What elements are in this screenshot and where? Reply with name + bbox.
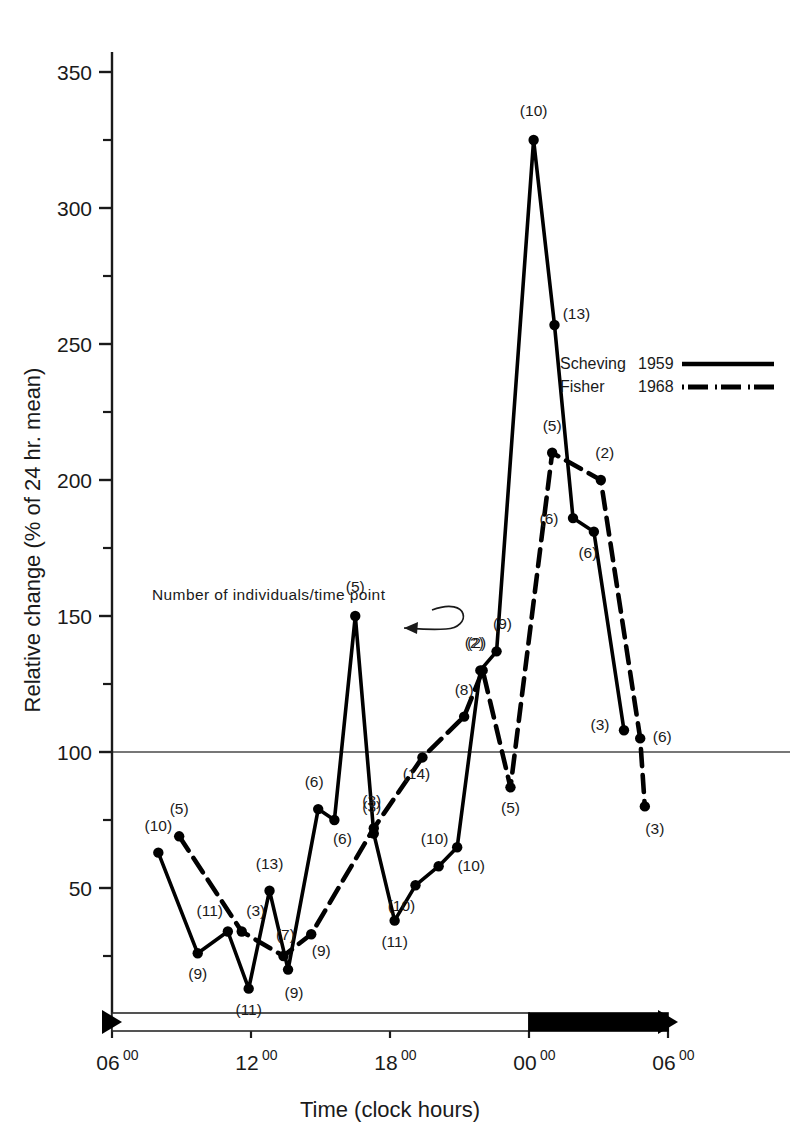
- y-tick-label: 350: [57, 61, 92, 84]
- svg-text:18: 18: [374, 1051, 397, 1074]
- data-point-marker: [283, 964, 293, 974]
- point-count-label: (11): [197, 902, 223, 919]
- y-tick-label: 100: [57, 741, 92, 764]
- point-count-label: (11): [381, 933, 407, 950]
- point-count-label: (10): [520, 102, 548, 119]
- point-count-label: (14): [403, 765, 431, 782]
- data-point-marker: [589, 526, 599, 536]
- point-count-label: (9): [188, 965, 207, 982]
- point-count-label: (6): [333, 830, 352, 847]
- point-count-label: (10): [145, 817, 173, 834]
- data-point-marker: [243, 983, 253, 993]
- data-point-marker: [278, 951, 288, 961]
- data-point-marker: [528, 135, 538, 145]
- data-point-marker: [193, 948, 203, 958]
- y-tick-label: 250: [57, 333, 92, 356]
- legend-year: 1959: [638, 355, 674, 372]
- point-count-label: (3): [246, 902, 265, 919]
- data-point-marker: [547, 448, 557, 458]
- data-point-marker: [640, 801, 650, 811]
- point-count-label: (5): [170, 800, 189, 817]
- data-point-marker: [237, 926, 247, 936]
- data-point-marker: [306, 929, 316, 939]
- annotation-layer: Number of individuals/time point: [152, 586, 463, 634]
- y-axis-title: Relative change (% of 24 hr. mean): [20, 368, 45, 713]
- point-count-label: (10): [388, 897, 416, 914]
- point-count-label: (13): [256, 855, 284, 872]
- data-point-marker: [619, 725, 629, 735]
- data-point-marker: [153, 847, 163, 857]
- svg-text:00: 00: [513, 1051, 536, 1074]
- svg-text:06: 06: [652, 1051, 675, 1074]
- data-point-marker: [313, 804, 323, 814]
- point-count-label: (3): [645, 820, 664, 837]
- data-point-marker: [389, 915, 399, 925]
- point-count-label: (10): [421, 830, 449, 847]
- data-point-marker: [350, 611, 360, 621]
- x-tick-label: 1200: [235, 1047, 277, 1074]
- light-phase-bar: [112, 1013, 529, 1031]
- data-point-marker: [459, 711, 469, 721]
- data-point-marker: [410, 880, 420, 890]
- data-point-marker: [452, 842, 462, 852]
- data-point-marker: [491, 646, 501, 656]
- svg-text:00: 00: [123, 1047, 139, 1063]
- svg-text:12: 12: [235, 1051, 258, 1074]
- point-count-label: (6): [305, 773, 324, 790]
- data-point-marker: [174, 831, 184, 841]
- x-axis-title: Time (clock hours): [300, 1097, 480, 1122]
- data-point-marker: [417, 752, 427, 762]
- data-point-marker: [223, 926, 233, 936]
- point-count-label: (6): [653, 728, 672, 745]
- point-count-label: (6): [578, 544, 597, 561]
- line-chart-canvas: (10)(9)(11)(11)(13)(9)(6)(6)(5)(3)(11)(1…: [0, 0, 802, 1127]
- legend-author: Scheving: [560, 355, 626, 372]
- legend-author: Fisher: [560, 378, 605, 395]
- svg-text:00: 00: [540, 1047, 556, 1063]
- point-count-label: (10): [457, 857, 485, 874]
- point-count-label: (5): [543, 417, 562, 434]
- point-count-label: (5): [501, 799, 520, 816]
- point-count-label: (2): [467, 634, 486, 651]
- series-line-fisher-1968: [179, 453, 645, 956]
- data-point-marker: [433, 861, 443, 871]
- dark-phase-bar: [529, 1013, 668, 1031]
- point-count-label: (3): [591, 716, 610, 733]
- legend-year: 1968: [638, 378, 674, 395]
- data-point-marker: [596, 475, 606, 485]
- svg-text:06: 06: [96, 1051, 119, 1074]
- point-count-label: (11): [235, 1001, 261, 1018]
- point-count-label: (9): [312, 942, 331, 959]
- data-point-marker: [549, 320, 559, 330]
- point-count-label: (8): [455, 681, 474, 698]
- point-count-label: (3): [362, 792, 381, 809]
- x-tick-label: 0600: [96, 1047, 138, 1074]
- data-point-marker: [477, 665, 487, 675]
- legend: Scheving1959Fisher1968: [560, 355, 774, 395]
- annotation-text: Number of individuals/time point: [152, 586, 386, 603]
- point-count-labels: (10)(9)(11)(11)(13)(9)(6)(6)(5)(3)(11)(1…: [145, 102, 672, 1018]
- y-tick-label: 300: [57, 197, 92, 220]
- x-tick-label: 1800: [374, 1047, 416, 1074]
- y-tick-label: 50: [69, 877, 92, 900]
- point-count-label: (7): [276, 926, 295, 943]
- svg-text:00: 00: [401, 1047, 417, 1063]
- point-count-label: (9): [493, 615, 512, 632]
- data-point-marker: [505, 782, 515, 792]
- chart-figure: (10)(9)(11)(11)(13)(9)(6)(6)(5)(3)(11)(1…: [0, 0, 802, 1127]
- series-layer: [153, 135, 650, 994]
- x-tick-label: 0600: [652, 1047, 694, 1074]
- legend-entry: Scheving1959: [560, 355, 774, 372]
- data-point-marker: [369, 823, 379, 833]
- svg-text:00: 00: [262, 1047, 278, 1063]
- series-line-scheving-1959: [158, 140, 624, 989]
- point-count-label: (13): [563, 305, 591, 322]
- point-count-label: (2): [595, 444, 614, 461]
- y-tick-label: 150: [57, 605, 92, 628]
- x-tick-label: 0000: [513, 1047, 555, 1074]
- y-tick-label: 200: [57, 469, 92, 492]
- data-point-marker: [264, 886, 274, 896]
- legend-entry: Fisher1968: [560, 378, 774, 395]
- data-point-marker: [635, 733, 645, 743]
- data-point-marker: [568, 513, 578, 523]
